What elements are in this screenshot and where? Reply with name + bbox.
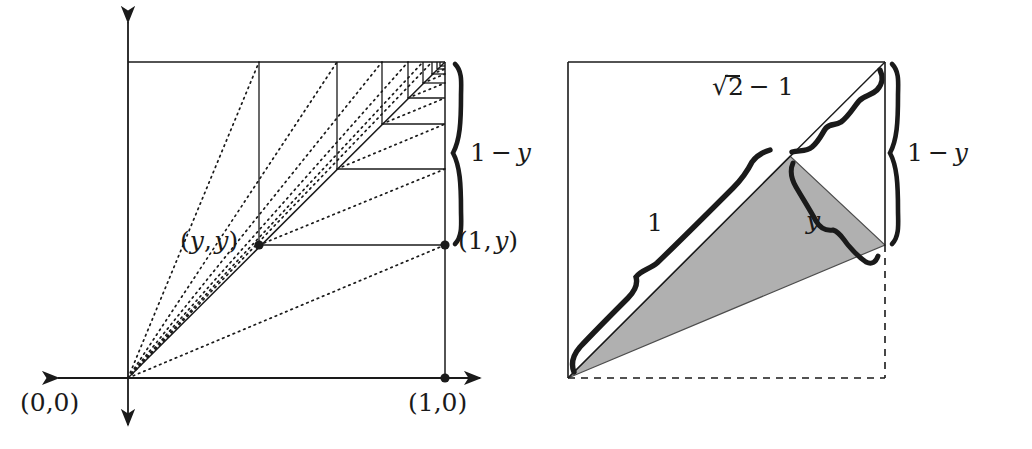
brace-one-minus-y-left	[453, 64, 461, 244]
label-one-minus-y-right-lead: 1	[907, 138, 923, 167]
dotted-ray-to-1y	[128, 245, 445, 378]
math-figure-svg	[0, 0, 1032, 449]
label-one-minus-y-left-lead: 1	[470, 138, 486, 167]
axes	[58, 22, 480, 425]
label-one-minus-y-right-minus: −	[928, 138, 949, 167]
label-y-y-second: y	[214, 226, 228, 255]
dotted-sec-6	[432, 69, 445, 74]
label-one-y-var: y	[494, 226, 508, 255]
label-one-minus-y-left-var: y	[517, 138, 531, 167]
left-panel-group	[58, 22, 480, 425]
sqrt-rest: − 1	[749, 72, 794, 101]
dotted-sec-4	[408, 83, 445, 98]
label-y-right-var: y	[806, 206, 820, 235]
label-one-zero: (1,0)	[408, 390, 467, 415]
label-y-y-comma: ,	[204, 226, 212, 255]
label-sqrt2-minus-1: √2 − 1	[712, 74, 794, 99]
label-one-y-one: 1,	[468, 226, 492, 255]
label-one-minus-y-left: 1 − y	[470, 140, 531, 165]
point-y-y	[254, 240, 263, 249]
label-y-y: (y, y)	[180, 228, 238, 253]
label-y-right: y	[806, 208, 820, 233]
label-origin: (0,0)	[20, 390, 79, 415]
shaded-triangle	[568, 156, 885, 378]
brace-sqrt2-minus-1	[792, 70, 882, 152]
right-panel-group	[568, 62, 898, 378]
point-one-y	[440, 240, 449, 249]
dotted-ray-6	[128, 62, 432, 378]
label-y-y-close: )	[228, 226, 238, 255]
label-one-y-open: (	[458, 226, 468, 255]
label-one-y-close: )	[508, 226, 518, 255]
label-one-y: (1, y)	[458, 228, 518, 253]
point-one-zero	[440, 373, 449, 382]
label-one-minus-y-right: 1 − y	[907, 140, 968, 165]
dotted-ray-5	[128, 62, 423, 378]
sqrt-overbar	[725, 75, 740, 77]
dotted-ray-2	[128, 62, 337, 378]
marked-points	[254, 240, 449, 382]
label-y-y-first: y	[190, 226, 204, 255]
figure-canvas: (0,0) (1,0) (y, y) (1, y) 1 − y √2 − 1 1…	[0, 0, 1032, 449]
main-diagonal	[128, 62, 445, 378]
dotted-ray-3	[128, 62, 382, 378]
label-y-y-open: (	[180, 226, 190, 255]
dotted-ray-4	[128, 62, 408, 378]
dotted-sec-2	[337, 124, 445, 169]
sqrt-radical-icon: √2	[712, 74, 744, 99]
label-one-minus-y-right-var: y	[954, 138, 968, 167]
brace-one-minus-y-right	[890, 64, 898, 244]
dotted-sec-3	[382, 98, 445, 124]
label-one-right: 1	[647, 210, 663, 235]
label-one-minus-y-left-minus: −	[491, 138, 512, 167]
